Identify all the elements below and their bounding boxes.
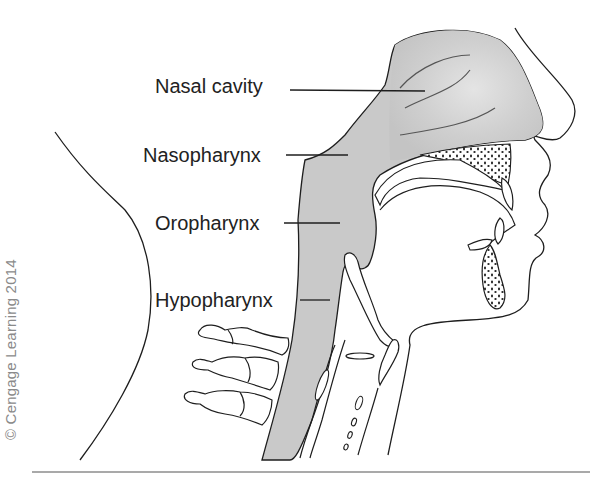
tracheal-ring bbox=[354, 395, 364, 410]
pharynx-anatomy-diagram bbox=[0, 0, 602, 481]
upper-incisor bbox=[502, 178, 513, 210]
mandible bbox=[482, 245, 505, 309]
thyroid-cartilage bbox=[379, 340, 399, 385]
label-hypopharynx: Hypopharynx bbox=[155, 290, 273, 310]
tracheal-ring bbox=[351, 417, 358, 426]
copyright-notice: © Cengage Learning 2014 bbox=[3, 259, 18, 440]
cervical-vertebrae bbox=[184, 325, 288, 425]
label-nasal-cavity: Nasal cavity bbox=[155, 76, 263, 96]
tracheal-ring bbox=[347, 431, 353, 439]
vocal-cord bbox=[346, 353, 374, 359]
epiglottis bbox=[344, 253, 395, 346]
neck-back-outline bbox=[55, 132, 151, 460]
label-oropharynx: Oropharynx bbox=[155, 213, 260, 233]
lower-incisor bbox=[495, 218, 504, 244]
label-nasopharynx: Nasopharynx bbox=[143, 145, 261, 165]
tracheal-ring bbox=[343, 443, 349, 450]
